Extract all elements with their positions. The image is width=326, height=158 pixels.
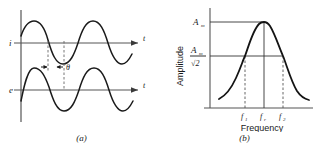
amplitude-axis-title: Amplitude (175, 46, 185, 86)
voltage-axis-label: e (9, 85, 13, 95)
current-axis-label: i (9, 38, 12, 48)
svg-text:r: r (264, 117, 266, 122)
svg-text:1: 1 (245, 117, 248, 122)
panel-a-caption: (a) (0, 133, 163, 143)
time-axis-label-upper: t (143, 34, 146, 43)
panel-b-plot: A m A m √2 Amplitude f 1 f r f (163, 0, 326, 132)
lower-cutoff-tick-label: f 1 (241, 112, 248, 122)
panel-a: i t e t θ (a) (0, 0, 163, 158)
half-power-amplitude-tick-label: A m √2 (190, 45, 206, 68)
resonant-frequency-tick-label: f r (260, 112, 266, 122)
svg-text:A: A (192, 17, 199, 27)
time-axis-current-arrowhead (131, 40, 138, 46)
upper-cutoff-tick-label: f 2 (279, 112, 286, 122)
phase-angle-label: θ (66, 63, 70, 72)
panel-b: A m A m √2 Amplitude f 1 f r f (163, 0, 326, 158)
panel-a-plot: i t e t θ (0, 0, 163, 132)
svg-text:A: A (190, 45, 197, 55)
svg-text:√2: √2 (191, 59, 199, 68)
svg-text:2: 2 (283, 117, 286, 122)
peak-amplitude-tick-label: A m (192, 17, 205, 28)
time-axis-voltage-arrowhead (131, 87, 138, 93)
panel-b-caption: (b) (163, 133, 326, 143)
svg-text:m: m (199, 51, 203, 56)
phase-arrow-right-head (57, 65, 61, 69)
phase-arrow-left-head (44, 65, 48, 69)
figure-root: i t e t θ (a) (0, 0, 326, 158)
frequency-axis-title: Frequency (241, 123, 284, 132)
svg-text:m: m (201, 23, 205, 28)
time-axis-label-lower: t (143, 81, 146, 90)
